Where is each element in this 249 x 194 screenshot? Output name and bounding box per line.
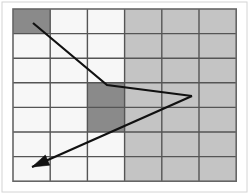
- grid-cell-c5-r3: [162, 58, 199, 83]
- grid-cell-c1-r4: [13, 83, 50, 108]
- grid-cell-c5-r7: [162, 157, 199, 182]
- grid-cell-c5-r5: [162, 107, 199, 132]
- grid-cell-c2-r4: [50, 83, 87, 108]
- grid-cell-c4-r6: [125, 132, 162, 157]
- grid-cell-c6-r1: [199, 9, 236, 34]
- grid-cell-c5-r1: [162, 9, 199, 34]
- grid-cell-c4-r7: [125, 157, 162, 182]
- start-cell: [13, 9, 50, 34]
- grid-cell-c6-r4: [199, 83, 236, 108]
- grid-cell-c1-r2: [13, 34, 50, 59]
- grid-cell-c1-r6: [13, 132, 50, 157]
- grid-cell-c6-r7: [199, 157, 236, 182]
- grid-cell-c5-r2: [162, 34, 199, 59]
- grid-cell-c4-r1: [125, 9, 162, 34]
- grid-cell-c3-r3: [87, 58, 124, 83]
- grid-cell-c4-r3: [125, 58, 162, 83]
- grid-cell-c1-r3: [13, 58, 50, 83]
- grid-cell-c3-r2: [87, 34, 124, 59]
- grid-diagram-figure: [0, 0, 249, 194]
- grid-cell-c3-r7: [87, 157, 124, 182]
- grid-cell-c2-r3: [50, 58, 87, 83]
- grid-cell-c6-r6: [199, 132, 236, 157]
- grid-cell-c1-r5: [13, 107, 50, 132]
- grid-cell-c4-r2: [125, 34, 162, 59]
- grid-cell-c2-r2: [50, 34, 87, 59]
- grid-cell-c5-r6: [162, 132, 199, 157]
- grid-cell-c6-r3: [199, 58, 236, 83]
- grid-cell-c2-r5: [50, 107, 87, 132]
- diagram-canvas: [0, 0, 249, 194]
- grid-cell-c2-r7: [50, 157, 87, 182]
- grid-cell-c4-r4: [125, 83, 162, 108]
- grid-cell-c3-r1: [87, 9, 124, 34]
- grid-cell-c2-r1: [50, 9, 87, 34]
- grid-cell-c6-r5: [199, 107, 236, 132]
- grid-cell-c3-r6: [87, 132, 124, 157]
- grid-cell-c6-r2: [199, 34, 236, 59]
